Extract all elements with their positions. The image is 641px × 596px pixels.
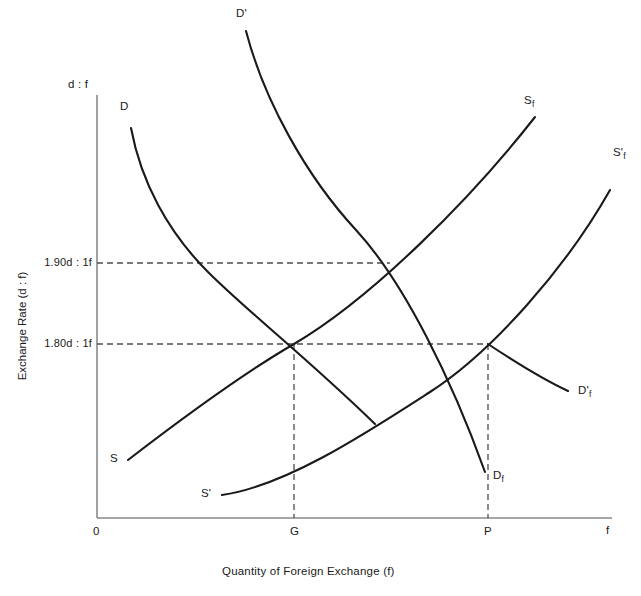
y-axis-title: Exchange Rate (d : f) [16,246,28,406]
curve-demand-D-prime [246,31,485,472]
x-tick-label-g: G [290,526,299,538]
curve-label-Sf-base: S [524,94,532,106]
curve-label-D: D [120,101,129,113]
exchange-rate-diagram: Exchange Rate (d : f) d : f 1.90d : 1f 1… [0,0,641,596]
curve-demand-Df-prime-tail [488,344,568,391]
curve-label-Df-prime-sub: f [589,389,592,399]
y-tick-label-180: 1.80d : 1f [22,338,92,349]
curve-supply-Sf-prime [222,190,610,495]
curve-label-Sf-prime-base: S' [613,146,623,158]
x-tick-label-origin: 0 [93,526,100,538]
diagram-canvas [0,0,641,596]
curve-label-Df-prime: D'f [578,385,591,399]
curve-label-Sf-prime: S'f [613,147,626,161]
curve-label-Df-prime-base: D' [578,384,589,396]
curve-supply-Sf [128,117,535,460]
curve-label-Df-sub: f [502,474,505,484]
x-axis-title: Quantity of Foreign Exchange (f) [222,566,395,578]
curve-label-D-prime: D' [236,8,247,20]
curve-label-S-prime: S' [201,488,211,500]
curve-label-Sf-sub: f [532,99,535,109]
x-tick-label-p: P [484,526,492,538]
curve-label-S: S [110,453,118,465]
y-tick-label-190: 1.90d : 1f [22,257,92,268]
curve-label-Df-base: D [493,469,502,481]
curve-label-Sf: Sf [524,95,534,109]
x-axis-unit-label: f [606,525,609,537]
curve-label-Sf-prime-sub: f [623,151,626,161]
curve-demand-D [131,128,375,424]
curve-label-Df: Df [493,470,504,484]
y-axis-unit-label: d : f [68,79,88,91]
